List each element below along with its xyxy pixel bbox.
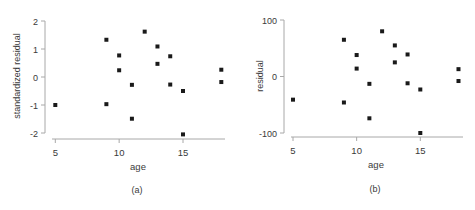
y-tick-label: -100 (259, 129, 277, 139)
data-point (367, 82, 371, 86)
data-point (393, 60, 397, 64)
data-point (406, 81, 410, 85)
data-point (104, 38, 108, 42)
data-point (380, 29, 384, 33)
data-point (143, 30, 147, 34)
y-tick-label: 1 (33, 45, 38, 55)
x-axis-label: age (130, 161, 146, 172)
data-point (181, 89, 185, 93)
data-point (117, 68, 121, 72)
x-tick-label: 10 (114, 147, 125, 158)
data-point (155, 62, 159, 66)
data-point (418, 131, 422, 135)
data-point (418, 87, 422, 91)
data-point (393, 43, 397, 47)
x-tick-label: 15 (178, 147, 189, 158)
y-tick-label: 0 (272, 72, 277, 82)
data-point (181, 132, 185, 136)
data-point (53, 103, 57, 107)
panel-label: (a) (132, 185, 143, 195)
x-tick-label: 5 (290, 145, 295, 156)
y-axis-label: residual (255, 60, 265, 92)
y-axis-label: standardized residual (12, 33, 22, 119)
data-point (168, 54, 172, 58)
x-axis-label: age (368, 159, 384, 170)
data-point (130, 117, 134, 121)
y-tick-label: -1 (30, 101, 38, 111)
panel-label: (b) (370, 184, 381, 194)
data-point (355, 67, 359, 71)
data-point (406, 52, 410, 56)
x-tick-label: 15 (415, 145, 426, 156)
data-point (456, 67, 460, 71)
data-point (291, 98, 295, 102)
x-tick-label: 10 (351, 145, 362, 156)
data-point (342, 100, 346, 104)
scatter-plot-b: -100010051015ageresidual(b) (237, 0, 475, 210)
y-tick-label: -2 (30, 129, 38, 139)
scatter-plot-a: -2-101251015agestandardized residual(a) (0, 0, 237, 210)
data-point (117, 53, 121, 57)
data-point (219, 68, 223, 72)
data-point (130, 83, 134, 87)
data-point (155, 44, 159, 48)
y-tick-label: 100 (262, 16, 277, 26)
x-tick-label: 5 (53, 147, 58, 158)
data-point (367, 116, 371, 120)
data-point (168, 83, 172, 87)
data-point (355, 53, 359, 57)
y-tick-label: 0 (33, 73, 38, 83)
y-tick-label: 2 (33, 17, 38, 27)
data-point (104, 102, 108, 106)
data-point (342, 38, 346, 42)
data-point (456, 79, 460, 83)
panel-b: -100010051015ageresidual(b) (237, 0, 475, 210)
data-point (219, 80, 223, 84)
panel-a: -2-101251015agestandardized residual(a) (0, 0, 237, 210)
